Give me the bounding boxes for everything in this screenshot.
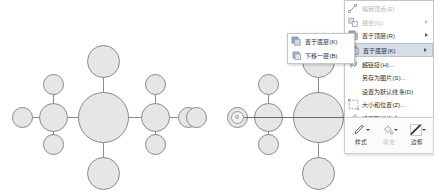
edit-points-icon (348, 3, 359, 14)
mini-toolbar-label: 填充 (383, 138, 395, 146)
no-icon (348, 72, 359, 83)
chevron-down-icon (422, 129, 426, 131)
shape-circle[interactable] (145, 74, 166, 95)
menu-item-save-as-picture[interactable]: 另存为图片(S)... (345, 71, 433, 85)
floating-mini-toolbar[interactable]: 样式填充边框 (344, 117, 434, 154)
mini-toolbar-label: 样式 (355, 138, 367, 146)
menu-item-label: 另存为图片(S)... (362, 73, 423, 82)
shape-circle[interactable] (43, 134, 64, 155)
menu-item-size-position[interactable]: 大小和位置(Z)... (345, 98, 433, 112)
submenu-item-send-to-back-cmd[interactable]: 置于底层(K) (288, 35, 354, 49)
shape-style-icon (354, 122, 369, 137)
shape-circle[interactable] (78, 92, 129, 143)
mini-toolbar-border-button[interactable]: 边框 (403, 122, 431, 146)
selection-handle[interactable] (231, 111, 244, 124)
mini-toolbar-style-button[interactable]: 样式 (347, 122, 375, 146)
no-icon (348, 86, 359, 97)
shape-border-icon (410, 122, 425, 137)
shape-circle[interactable] (258, 74, 279, 95)
shape-circle[interactable] (258, 134, 279, 155)
shape-circle[interactable] (141, 103, 170, 132)
menu-item-label: 组合(G) (362, 18, 423, 27)
menu-item-label: 下移一层(B) (305, 51, 344, 60)
shape-circle[interactable] (145, 134, 166, 155)
shape-circle[interactable] (302, 157, 335, 190)
menu-item-set-default-line[interactable]: 设置为默认线条(D) (345, 85, 433, 99)
menu-item-label: 大小和位置(Z)... (362, 100, 423, 109)
menu-item-label: 置于顶层(R) (362, 31, 423, 40)
send-to-back-submenu[interactable]: 置于底层(K)下移一层(B) (287, 33, 355, 64)
menu-item-label: 超链接(H)... (362, 60, 423, 69)
submenu-arrow-icon (423, 18, 429, 26)
menu-item-group: 组合(G) (345, 16, 433, 30)
shape-context-menu[interactable]: 编辑顶点(E)组合(G)置于顶层(R)置于底层(K)超链接(H)...另存为图片… (344, 0, 434, 127)
menu-item-bring-to-front[interactable]: 置于顶层(R) (345, 29, 433, 43)
shape-circle[interactable] (39, 103, 68, 132)
chevron-down-icon (366, 129, 370, 131)
chevron-down-icon (394, 129, 398, 131)
shape-circle[interactable] (87, 45, 120, 78)
size-position-icon (348, 99, 359, 110)
shape-circle[interactable] (186, 107, 207, 128)
mini-toolbar-label: 边框 (411, 138, 423, 146)
shape-circle[interactable] (43, 74, 64, 95)
fill-bucket-icon (382, 122, 397, 137)
menu-item-label: 设置为默认线条(D) (362, 87, 423, 96)
slide-canvas: 编辑顶点(E)组合(G)置于顶层(R)置于底层(K)超链接(H)...另存为图片… (0, 0, 434, 193)
send-backward-icon (291, 50, 302, 61)
mini-toolbar-fill-button[interactable]: 填充 (375, 122, 403, 146)
send-back-icon (291, 36, 302, 47)
menu-item-edit-points: 编辑顶点(E) (345, 2, 433, 16)
group-icon (348, 17, 359, 28)
submenu-arrow-icon (423, 32, 429, 40)
shape-circle[interactable] (87, 157, 120, 190)
submenu-item-send-backward[interactable]: 下移一层(B) (288, 49, 354, 63)
menu-item-label: 置于底层(K) (363, 46, 422, 55)
menu-item-send-to-back[interactable]: 置于底层(K) (345, 43, 433, 58)
submenu-arrow-icon (422, 46, 428, 54)
shape-circle[interactable] (12, 107, 33, 128)
menu-item-label: 置于底层(K) (305, 37, 344, 46)
menu-item-label: 编辑顶点(E) (362, 4, 423, 13)
menu-item-hyperlink[interactable]: 超链接(H)... (345, 57, 433, 71)
